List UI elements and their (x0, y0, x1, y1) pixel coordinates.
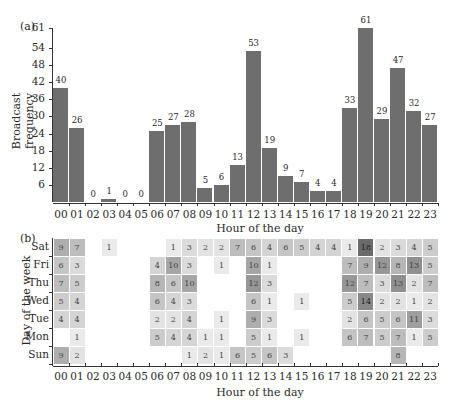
heatmap-cell: 2 (375, 239, 390, 256)
x-tick-label: 01 (69, 370, 85, 382)
bar-value-label: 4 (326, 178, 342, 188)
x-tick-label: 23 (422, 370, 438, 382)
x-tick-label: 03 (101, 208, 117, 220)
x-tick-label: 16 (310, 370, 326, 382)
heatmap-cell: 2 (198, 347, 213, 364)
x-tick-label: 02 (85, 370, 101, 382)
heatmap-cell: 5 (423, 329, 438, 346)
x-tick-label: 07 (165, 370, 181, 382)
y-tick-mark (49, 292, 52, 293)
heatmap-cell: 5 (375, 311, 390, 328)
x-tick-mark (165, 363, 166, 366)
bar-value-label: 27 (165, 112, 181, 122)
x-tick-mark (165, 203, 166, 206)
bar-value-label: 19 (262, 135, 278, 145)
x-tick-mark (214, 203, 215, 206)
x-tick-label: 17 (326, 370, 342, 382)
x-tick-mark (438, 203, 439, 206)
y-tick-mark (49, 256, 52, 257)
x-tick-mark (310, 203, 311, 206)
heatmap-cell: 3 (182, 293, 197, 310)
x-tick-mark (390, 363, 391, 366)
x-tick-mark (374, 363, 375, 366)
heatmap-cell: 2 (423, 293, 438, 310)
y-tick-mark (49, 116, 52, 117)
x-tick-mark (262, 363, 263, 366)
x-tick-label: 15 (294, 370, 310, 382)
x-tick-label: 04 (117, 208, 133, 220)
heatmap-cell: 5 (342, 293, 357, 310)
heatmap-cell: 3 (375, 275, 390, 292)
x-tick-label: 19 (358, 208, 374, 220)
bar-value-label: 33 (342, 95, 358, 105)
x-tick-label: 11 (230, 208, 246, 220)
heatmap-cell: 1 (182, 347, 197, 364)
heatmap-cell: 7 (70, 239, 85, 256)
bar (262, 148, 278, 202)
x-tick-label: 10 (214, 208, 230, 220)
x-tick-label: 18 (342, 370, 358, 382)
heatmap-cell: 7 (358, 275, 373, 292)
heatmap-cell: 1 (70, 329, 85, 346)
x-tick-mark (358, 203, 359, 206)
bar-value-label: 40 (53, 75, 69, 85)
heatmap-cell: 4 (407, 239, 422, 256)
heatmap-cell: 1 (214, 257, 229, 274)
heatmap-cell: 6 (246, 293, 261, 310)
bar (326, 191, 342, 202)
heatmap-cell: 9 (54, 347, 69, 364)
x-tick-label: 00 (53, 370, 69, 382)
x-tick-mark (262, 203, 263, 206)
x-tick-label: 07 (165, 208, 181, 220)
bar-value-label: 0 (85, 189, 101, 199)
heatmap-cell: 18 (358, 239, 373, 256)
x-tick-label: 12 (246, 208, 262, 220)
bar (422, 125, 438, 202)
bar (310, 191, 326, 202)
heatmap-cell: 3 (182, 239, 197, 256)
bar (246, 51, 262, 202)
y-tick-mark (49, 65, 52, 66)
x-tick-label: 13 (262, 370, 278, 382)
bar-value-label: 5 (197, 175, 213, 185)
heatmap-cell: 2 (214, 239, 229, 256)
x-tick-mark (374, 203, 375, 206)
heatmap-cell: 7 (54, 275, 69, 292)
heatmap-cell: 1 (214, 347, 229, 364)
y-tick-mark (49, 99, 52, 100)
day-label: Fri (15, 258, 49, 270)
bar (358, 28, 374, 202)
x-tick-label: 17 (326, 208, 342, 220)
heatmap-cell: 13 (391, 275, 406, 292)
x-tick-mark (438, 363, 439, 366)
heatmap-cell: 5 (246, 329, 261, 346)
x-tick-mark (358, 363, 359, 366)
x-tick-mark (117, 203, 118, 206)
bar-value-label: 9 (278, 163, 294, 173)
x-tick-mark (278, 203, 279, 206)
bar-value-label: 29 (374, 106, 390, 116)
bar-value-label: 47 (390, 55, 406, 65)
y-tick-label: 61 (15, 21, 45, 33)
x-tick-label: 08 (181, 370, 197, 382)
x-tick-label: 09 (197, 370, 213, 382)
x-tick-label: 22 (406, 370, 422, 382)
heatmap-cell: 3 (278, 347, 293, 364)
day-label: Mon (15, 330, 49, 342)
x-tick-label: 02 (85, 208, 101, 220)
heatmap-cell: 1 (102, 239, 117, 256)
y-tick-label: 54 (15, 41, 45, 53)
x-tick-mark (133, 203, 134, 206)
heatmap-cell: 4 (54, 311, 69, 328)
bar-value-label: 28 (181, 109, 197, 119)
x-tick-label: 08 (181, 208, 197, 220)
x-tick-label: 22 (406, 208, 422, 220)
x-tick-label: 16 (310, 208, 326, 220)
bar (69, 128, 85, 202)
heatmap-cell: 9 (358, 257, 373, 274)
heatmap-cell: 12 (375, 257, 390, 274)
x-tick-label: 00 (53, 208, 69, 220)
heatmap-cell: 5 (70, 275, 85, 292)
heatmap-cell: 5 (423, 257, 438, 274)
x-tick-mark (85, 363, 86, 366)
